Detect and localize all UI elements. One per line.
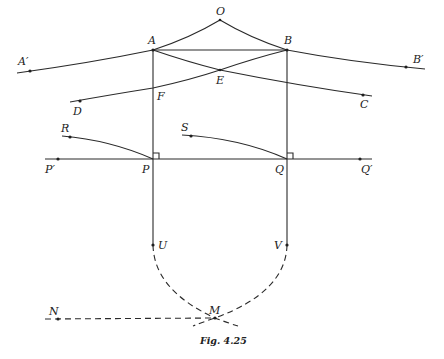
point-b xyxy=(285,48,288,51)
label-f: F xyxy=(156,90,165,103)
label-m: M xyxy=(208,304,221,317)
label-n: N xyxy=(48,305,59,318)
geometry-figure: O A B A′ B′ E F D C R S P′ P Q Q′ U V N … xyxy=(0,0,444,359)
point-d xyxy=(78,99,81,102)
point-r xyxy=(68,135,71,138)
label-q-prime: Q′ xyxy=(361,163,373,176)
point-s xyxy=(189,134,192,137)
label-a-prime: A′ xyxy=(17,55,29,68)
dashed-curve-u-to-m xyxy=(153,245,238,326)
point-v xyxy=(285,243,288,246)
label-e: E xyxy=(215,74,224,87)
dashed-line-n-to-m xyxy=(45,318,215,319)
label-d: D xyxy=(72,105,82,118)
point-u xyxy=(151,243,154,246)
label-s: S xyxy=(181,121,189,134)
label-q: Q xyxy=(275,163,284,176)
label-c: C xyxy=(360,98,369,111)
label-b: B xyxy=(283,34,292,47)
point-q-prime xyxy=(358,157,361,160)
point-e xyxy=(219,69,222,72)
point-a-prime xyxy=(28,69,31,72)
point-c xyxy=(361,93,364,96)
right-angle-mark-p xyxy=(153,153,159,159)
point-p-prime xyxy=(56,157,59,160)
point-b-prime xyxy=(404,65,407,68)
arc-a-prime-to-b-prime xyxy=(17,20,425,73)
label-b-prime: B′ xyxy=(412,53,424,66)
label-u: U xyxy=(158,239,168,252)
label-r: R xyxy=(60,122,69,135)
curve-r-to-p xyxy=(62,136,153,159)
curve-s-to-q xyxy=(182,135,287,159)
right-angle-mark-q xyxy=(287,153,293,159)
label-v: V xyxy=(274,239,283,252)
point-a xyxy=(151,48,154,51)
point-o xyxy=(219,19,222,22)
label-a: A xyxy=(147,34,156,47)
label-p-prime: P′ xyxy=(44,163,55,176)
label-o: O xyxy=(216,5,225,18)
label-p: P xyxy=(141,163,150,176)
figure-caption: Fig. 4.25 xyxy=(199,335,247,346)
